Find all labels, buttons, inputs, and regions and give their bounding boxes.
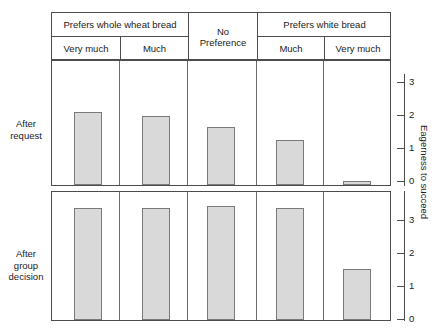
header-group-no-preference-line2: Preference	[200, 37, 246, 48]
y-ticklabel-bottom-0: 0	[409, 314, 414, 324]
row-label-after-request-line2: request	[0, 130, 52, 142]
panel-after-request	[51, 60, 391, 186]
header-sub-label-0: Very much	[64, 43, 109, 54]
panel-top-gridline-3	[256, 61, 257, 185]
y-tick-bottom-3	[397, 220, 404, 221]
header-table: Prefers whole wheat bread No Preference …	[51, 12, 391, 60]
bar-after-request-4	[343, 181, 371, 185]
header-group-white-bread-label: Prefers white bread	[283, 19, 365, 30]
header-sub-whole-wheat-much: Much	[121, 37, 188, 60]
panel-bottom-gridline-1	[119, 192, 120, 320]
panel-bottom-gridline-4	[323, 192, 324, 320]
y-ticklabel-top-1: 1	[409, 143, 414, 153]
row-label-after-group-line2: group	[0, 260, 52, 272]
header-sub-label-1: Much	[143, 43, 166, 54]
header-group-white-bread: Prefers white bread	[258, 13, 391, 36]
row-label-after-group-line3: decision	[0, 271, 52, 283]
bar-after-group-1	[142, 208, 170, 320]
y-tick-top-1	[397, 148, 404, 149]
header-group-no-preference-line1: No	[217, 26, 229, 37]
bar-after-group-0	[74, 208, 102, 320]
y-ticklabel-top-0: 0	[409, 176, 414, 186]
y-tick-bottom-1	[397, 286, 404, 287]
bar-after-group-2	[207, 206, 235, 320]
header-sub-white-very-much: Very much	[325, 37, 391, 60]
bar-after-request-1	[142, 116, 170, 185]
chart-figure: After request After group decision Prefe…	[0, 0, 447, 332]
header-group-whole-wheat: Prefers whole wheat bread	[52, 13, 188, 36]
row-label-after-group-decision: After group decision	[0, 248, 52, 283]
row-label-after-request: After request	[0, 118, 52, 141]
y-tick-top-3	[397, 82, 404, 83]
panel-bottom-gridline-2	[187, 192, 188, 320]
y-axis-title: Eagerness to succeed	[419, 125, 430, 275]
y-tick-top-2	[397, 115, 404, 116]
header-sub-label-3: Very much	[336, 43, 381, 54]
header-group-whole-wheat-label: Prefers whole wheat bread	[63, 19, 176, 30]
panel-top-gridline-4	[323, 61, 324, 185]
bar-after-group-3	[276, 208, 304, 320]
panel-top-gridline-1	[119, 61, 120, 185]
header-group-no-preference: No Preference	[189, 13, 257, 60]
bar-after-group-4	[343, 269, 371, 320]
y-axis-bottom	[404, 191, 405, 321]
header-sub-white-much: Much	[258, 37, 324, 60]
row-label-after-group-line1: After	[0, 248, 52, 260]
panel-after-group-decision	[51, 191, 391, 321]
y-ticklabel-bottom-1: 1	[409, 281, 414, 291]
y-tick-bottom-0	[397, 319, 404, 320]
panel-top-gridline-2	[187, 61, 188, 185]
y-ticklabel-bottom-2: 2	[409, 248, 414, 258]
y-ticklabel-top-3: 3	[409, 77, 414, 87]
header-sub-label-2: Much	[279, 43, 302, 54]
y-ticklabel-bottom-3: 3	[409, 215, 414, 225]
y-tick-bottom-2	[397, 253, 404, 254]
header-divider-v2	[188, 13, 189, 60]
y-tick-top-0	[397, 181, 404, 182]
row-label-after-request-line1: After	[0, 118, 52, 130]
header-divider-v1	[120, 36, 121, 60]
bar-after-request-2	[207, 127, 235, 185]
y-ticklabel-top-2: 2	[409, 110, 414, 120]
panel-bottom-gridline-3	[256, 192, 257, 320]
header-divider-v4	[324, 36, 325, 60]
header-sub-whole-wheat-very-much: Very much	[52, 37, 120, 60]
bar-after-request-0	[74, 112, 102, 185]
header-divider-v3	[257, 13, 258, 60]
y-axis-top	[404, 74, 405, 186]
bar-after-request-3	[276, 140, 304, 185]
